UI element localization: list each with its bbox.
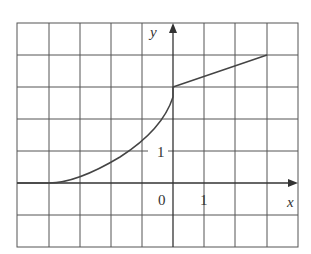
grid: [17, 23, 298, 247]
y-axis-arrow-icon: [169, 23, 177, 33]
x-axis-arrow-icon: [288, 179, 298, 187]
x-tick-1-label: 1: [200, 192, 208, 208]
origin-label: 0: [158, 192, 166, 208]
x-axis-label: x: [286, 194, 294, 210]
y-tick-1-label: 1: [157, 144, 165, 160]
axes: [17, 28, 294, 247]
y-axis-label: y: [148, 24, 157, 40]
function-graph: y x 0 1 1: [0, 0, 311, 254]
